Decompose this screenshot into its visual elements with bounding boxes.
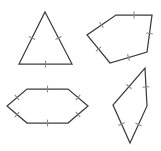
figure-pentagon xyxy=(87,12,153,63)
figure-rhombus xyxy=(113,68,149,143)
pentagon-tick-side-5 xyxy=(100,22,104,28)
figure-canvas xyxy=(0,0,161,151)
equilateral-triangle-outline xyxy=(19,12,72,64)
hexagon-outline xyxy=(7,89,88,123)
figure-hexagon xyxy=(7,86,88,127)
figure-equilateral-triangle xyxy=(19,12,72,67)
pentagon-tick-side-2 xyxy=(146,33,153,34)
geometry-figure-sheet xyxy=(0,0,161,151)
rhombus-outline xyxy=(113,68,147,143)
pentagon-outline xyxy=(87,15,152,63)
